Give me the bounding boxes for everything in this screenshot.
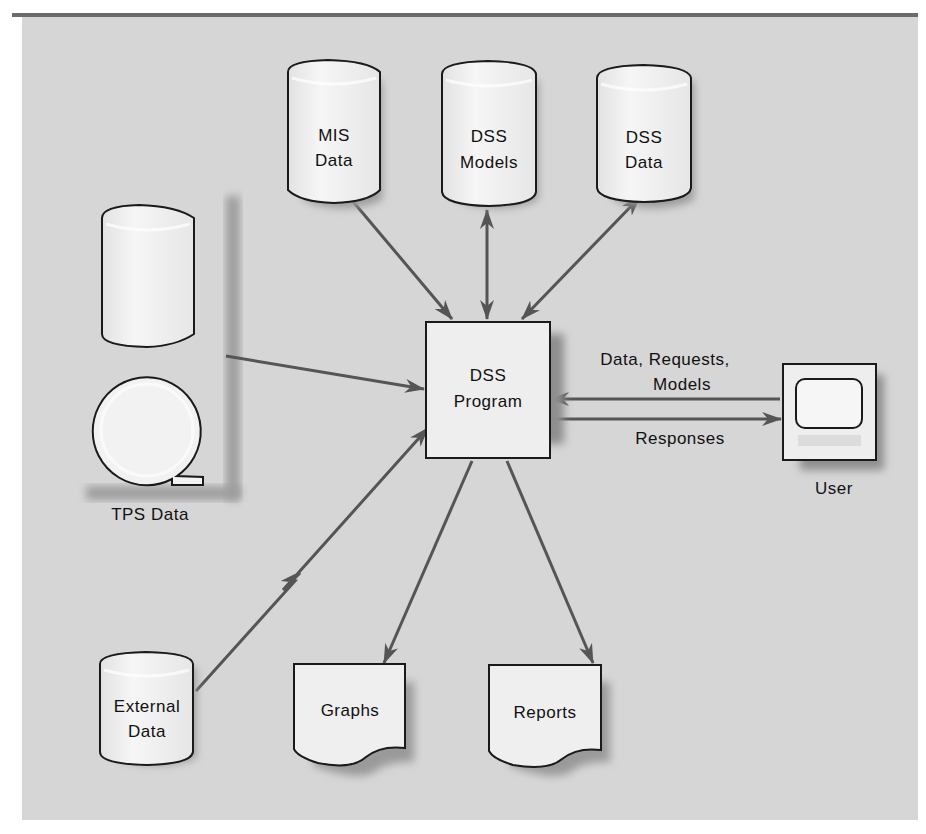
panel-top-border <box>12 13 918 17</box>
node-dss-program: DSS Program <box>426 322 564 458</box>
dss-data-label-1: DSS <box>626 128 662 147</box>
external-data-label-1: External <box>114 697 180 716</box>
node-reports: Reports <box>489 665 610 776</box>
edge-label-responses: Responses <box>635 429 725 448</box>
mis-data-label-1: MIS <box>318 126 350 145</box>
node-dss-models: DSS Models <box>442 61 538 208</box>
node-dss-data: DSS Data <box>597 65 694 208</box>
node-graphs: Graphs <box>294 664 414 776</box>
external-data-label-2: Data <box>128 722 166 741</box>
tape-reel-icon <box>93 377 203 485</box>
user-label: User <box>815 479 853 498</box>
terminal-screen <box>796 379 862 428</box>
dss-program-label-1: DSS <box>470 366 506 385</box>
dss-program-label-2: Program <box>454 392 523 411</box>
mis-data-label-2: Data <box>315 151 353 170</box>
graphs-label: Graphs <box>321 701 380 720</box>
dss-program-box <box>426 322 550 458</box>
reports-label: Reports <box>513 703 576 722</box>
tps-data-label: TPS Data <box>111 505 189 524</box>
edge-label-requests-2: Models <box>653 375 711 394</box>
edge-label-requests-1: Data, Requests, <box>600 350 729 369</box>
dss-data-label-2: Data <box>625 153 663 172</box>
dss-diagram: MIS Data DSS Models DSS Data TPS Data DS… <box>0 0 926 834</box>
dss-models-label-1: DSS <box>471 127 507 146</box>
dss-models-label-2: Models <box>460 153 518 172</box>
node-external-data: External Data <box>100 652 196 765</box>
node-mis-data: MIS Data <box>288 60 382 208</box>
